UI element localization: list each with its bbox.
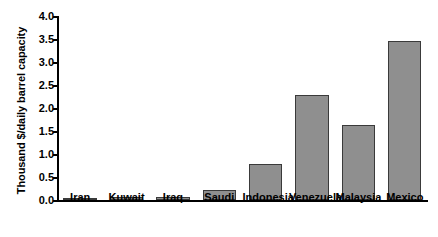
bar bbox=[295, 95, 328, 200]
bar bbox=[388, 41, 421, 200]
y-axis-tick-label: 1.0 bbox=[39, 147, 54, 161]
x-axis-tick-label: Malaysia bbox=[335, 190, 381, 204]
y-axis-tick-label: 1.5 bbox=[39, 124, 54, 138]
plot-area: 0.00.51.01.52.02.53.03.54.0 bbox=[57, 16, 428, 200]
y-axis-tick-label: 0.0 bbox=[39, 193, 54, 207]
y-axis-tick-label: 2.0 bbox=[39, 101, 54, 115]
y-axis-spine bbox=[57, 16, 59, 200]
y-axis-tick-label: 3.0 bbox=[39, 55, 54, 69]
y-axis-tick-label: 2.5 bbox=[39, 78, 54, 92]
x-axis-tick-label: Kuwait bbox=[103, 190, 149, 204]
x-axis-tick-label: Indonesia bbox=[243, 190, 289, 204]
y-axis-title: Thousand $/daily barrel capacity bbox=[14, 8, 28, 213]
x-axis-tick-label: Iran bbox=[57, 190, 103, 204]
bar-chart-figure: Thousand $/daily barrel capacity 0.00.51… bbox=[0, 0, 438, 237]
y-axis-tick-label: 4.0 bbox=[39, 9, 54, 23]
x-axis-tick-label: Venezuela bbox=[289, 190, 335, 204]
bar bbox=[342, 125, 375, 200]
x-axis-tick-label: Saudi bbox=[196, 190, 242, 204]
x-axis-tick-label: Mexico bbox=[382, 190, 428, 204]
x-axis-tick-label: Iraq bbox=[150, 190, 196, 204]
y-axis-tick-label: 0.5 bbox=[39, 170, 54, 184]
y-axis-tick-label: 3.5 bbox=[39, 32, 54, 46]
